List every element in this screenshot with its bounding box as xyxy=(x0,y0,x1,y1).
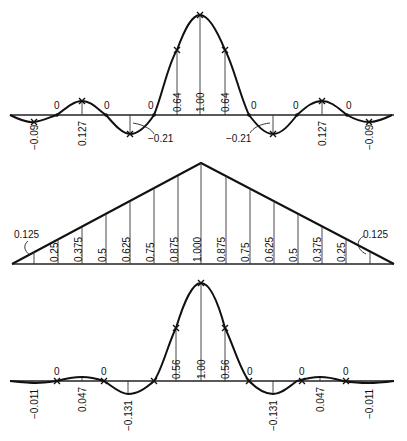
bottom-value-label: −0.131 xyxy=(123,400,134,431)
top-zero-label: 0 xyxy=(104,100,110,111)
top-value-label: 0.127 xyxy=(77,121,88,146)
top-zero-label: 0 xyxy=(346,100,352,111)
bottom-panel: 0 0 0 0 0 −0.011 0.047 −0.131 0.56 1.00 … xyxy=(10,280,394,431)
top-curve xyxy=(10,15,392,134)
bottom-zero-label: 0 xyxy=(247,366,253,377)
top-value-label: −0.09 xyxy=(29,124,40,150)
top-value-label: 0.127 xyxy=(317,121,328,146)
bottom-zero-label: 0 xyxy=(101,366,107,377)
triangle-value-label: 0.75 xyxy=(240,242,251,262)
triangle-value-label: 0.875 xyxy=(169,237,180,262)
triangle-value-label: 0.25 xyxy=(336,242,347,262)
top-zero-label: 0 xyxy=(293,100,299,111)
triangle-value-label: 0.125 xyxy=(14,229,39,240)
bottom-value-label: −0.131 xyxy=(268,400,279,431)
bottom-value-label: 0.047 xyxy=(315,387,326,412)
top-value-label: 0.64 xyxy=(220,92,231,112)
bottom-value-label: −0.011 xyxy=(29,388,40,419)
bottom-value-label: −0.011 xyxy=(364,388,375,419)
triangle-value-label: 0.75 xyxy=(145,242,156,262)
top-value-label: −0.21 xyxy=(148,133,174,144)
top-value-label: 1.00 xyxy=(195,92,206,112)
top-zero-label: 0 xyxy=(251,100,257,111)
triangle-value-label: 0.625 xyxy=(264,237,275,262)
bottom-zero-label: 0 xyxy=(343,366,349,377)
bottom-value-label: 0.56 xyxy=(220,359,231,379)
triangle-leader xyxy=(25,241,30,255)
top-panel: 0 0 0 0 0 0 −0.09 0.127 0.64 1.00 0.64 0… xyxy=(10,12,394,150)
bottom-value-label: 0.047 xyxy=(77,387,88,412)
top-value-label: −0.09 xyxy=(364,124,375,150)
top-value-label: −0.21 xyxy=(226,133,252,144)
top-zero-label: 0 xyxy=(54,100,60,111)
triangle-value-label: 0.625 xyxy=(121,237,132,262)
bottom-value-label: 0.56 xyxy=(171,359,182,379)
diagram-canvas: 0 0 0 0 0 0 −0.09 0.127 0.64 1.00 0.64 0… xyxy=(0,0,407,441)
triangle-value-label: 0.5 xyxy=(97,248,108,262)
triangle-value-label: 0.375 xyxy=(312,237,323,262)
top-zero-label: 0 xyxy=(148,100,154,111)
top-value-label: 0.64 xyxy=(172,92,183,112)
bottom-value-label: 1.00 xyxy=(196,359,207,379)
bottom-zero-label: 0 xyxy=(299,366,305,377)
triangle-value-label: 1.000 xyxy=(192,237,203,262)
triangle-value-label: 0.5 xyxy=(288,248,299,262)
triangle-value-label: 0.125 xyxy=(363,229,388,240)
triangle-value-label: 0.25 xyxy=(49,242,60,262)
triangle-value-label: 0.875 xyxy=(216,237,227,262)
bottom-zero-label: 0 xyxy=(54,366,60,377)
middle-panel: 0.125 0.25 0.375 0.5 0.625 0.75 0.875 1.… xyxy=(12,163,394,264)
triangle-value-label: 0.375 xyxy=(73,237,84,262)
top-markers xyxy=(31,12,372,137)
